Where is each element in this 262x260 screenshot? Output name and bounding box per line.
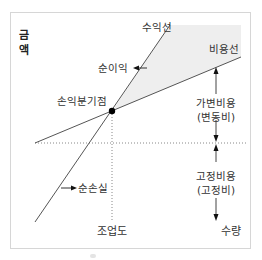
- fixed-cost-label-line1: 고정비용: [194, 171, 238, 182]
- break-even-dot: [109, 108, 115, 114]
- operating-level-label: 조업도: [97, 226, 127, 237]
- arrowhead-up-icon: [214, 144, 219, 151]
- arrowhead-down-icon: [214, 214, 219, 221]
- variable-cost-label-line1: 가변비용: [194, 98, 238, 109]
- y-axis-label-line1: 금: [17, 28, 31, 43]
- x-axis-label: 수량: [221, 226, 241, 237]
- net-profit-arrowhead-icon: [133, 66, 139, 71]
- y-axis-label: 금 액: [17, 28, 31, 58]
- fixed-cost-label: 고정비용 (고정비): [194, 171, 238, 195]
- variable-cost-label: 가변비용 (변동비): [194, 98, 238, 122]
- net-loss-label: 순손실: [78, 183, 108, 194]
- break-even-point-label: 손익분기점: [57, 96, 107, 107]
- break-even-chart: [0, 0, 262, 260]
- fixed-cost-label-line2: (고정비): [194, 185, 238, 196]
- revenue-line-label: 수익선: [142, 22, 172, 33]
- variable-cost-label-line2: (변동비): [194, 112, 238, 123]
- decorative-mark: [90, 254, 96, 258]
- arrowhead-down-icon: [214, 135, 219, 142]
- net-profit-label: 순이익: [98, 63, 128, 74]
- cost-line-label: 비용선: [209, 44, 239, 55]
- net-loss-arrowhead-icon: [71, 186, 77, 191]
- y-axis-label-line2: 액: [17, 43, 31, 58]
